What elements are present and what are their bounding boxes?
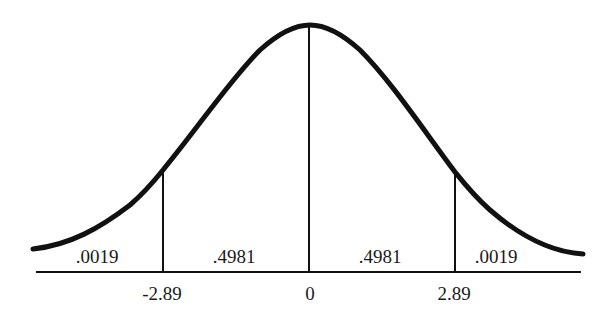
area-label-right-center: .4981 <box>359 247 402 266</box>
area-label-left-tail: .0019 <box>76 247 119 266</box>
area-label-right-tail: .0019 <box>475 247 518 266</box>
normal-distribution-diagram <box>0 0 616 316</box>
tick-label-right: 2.89 <box>437 284 470 303</box>
tick-label-center: 0 <box>305 284 315 303</box>
tick-label-left: -2.89 <box>142 284 182 303</box>
area-label-left-center: .4981 <box>213 247 256 266</box>
